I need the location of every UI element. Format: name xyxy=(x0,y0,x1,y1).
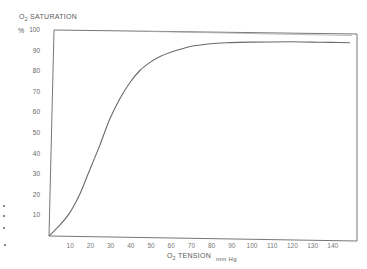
scan-mark xyxy=(3,227,5,229)
x-axis-title: O2 TENSION xyxy=(167,252,211,261)
x-tick-label: 40 xyxy=(121,242,141,249)
x-tick-label: 60 xyxy=(161,242,181,249)
x-tick-label: 20 xyxy=(80,242,100,249)
x-tick-label: 30 xyxy=(101,242,121,249)
dissociation-curve xyxy=(49,42,350,236)
plot-area xyxy=(0,0,367,269)
x-tick-label: 130 xyxy=(303,242,323,249)
x-tick-label: 100 xyxy=(242,242,262,249)
x-tick-label: 50 xyxy=(141,242,161,249)
y-title-rest: SATURATION xyxy=(28,13,77,20)
x-tick-label: 120 xyxy=(282,242,302,249)
y-tick-label: 70 xyxy=(16,88,40,95)
y-tick-label: 50 xyxy=(16,129,40,136)
y-tick-label: 80 xyxy=(16,67,40,74)
y-tick-label: 40 xyxy=(16,150,40,157)
scan-mark xyxy=(3,215,5,217)
y-axis-unit: % xyxy=(18,27,25,34)
x-tick-label: 10 xyxy=(60,242,80,249)
scan-mark xyxy=(4,244,6,246)
y-tick-label: 10 xyxy=(16,211,40,218)
x-axis-unit: mm Hg xyxy=(216,256,237,262)
y-axis-title: O2 SATURATION xyxy=(19,13,77,22)
scan-mark xyxy=(3,205,5,207)
x-tick-label: 140 xyxy=(323,242,343,249)
x-tick-label: 90 xyxy=(222,242,242,249)
y-tick-label: 30 xyxy=(16,170,40,177)
y-tick-label: 60 xyxy=(16,108,40,115)
plot-frame xyxy=(49,30,357,241)
x-title-rest: TENSION xyxy=(176,252,211,259)
y-tick-label: 20 xyxy=(16,191,40,198)
y-tick-label: 90 xyxy=(16,47,40,54)
x-tick-label: 80 xyxy=(202,242,222,249)
x-tick-label: 70 xyxy=(181,242,201,249)
x-tick-label: 110 xyxy=(262,242,282,249)
